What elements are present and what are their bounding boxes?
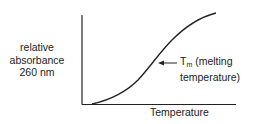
tm-label-line-1: (melting [192,55,232,67]
tm-annotation: Tm (melting temperature) [180,55,240,83]
arrow-icon [158,61,177,66]
tm-label-line-2: temperature) [180,71,240,83]
x-axis-label: Temperature [150,106,209,118]
